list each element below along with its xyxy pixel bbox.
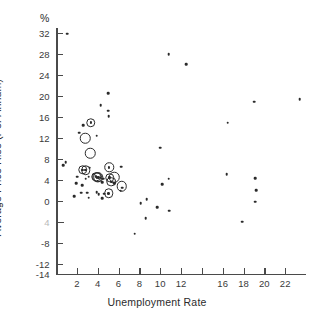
data-point (185, 63, 188, 66)
data-point (161, 183, 164, 186)
data-point (76, 175, 79, 178)
data-point (145, 198, 148, 201)
y-tick: 24 (56, 75, 63, 76)
y-tick-label: 0 (44, 195, 49, 206)
data-point (84, 177, 87, 180)
x-tick (98, 268, 99, 275)
y-axis-title: Average Price Rise (Per Annum) (0, 0, 22, 315)
data-point (116, 181, 127, 192)
data-point (101, 197, 104, 200)
y-tick-label: 4 (44, 174, 49, 185)
data-point (254, 177, 257, 180)
scatter-plot-figure: Average Price Rise (Per Annum) % Unemplo… (0, 0, 314, 315)
y-tick-label: 20 (39, 91, 50, 102)
data-point (107, 115, 110, 118)
x-tick (285, 268, 286, 275)
data-point (62, 164, 65, 167)
data-point (81, 165, 91, 175)
x-tick-label: 20 (259, 278, 270, 289)
x-tick-label: 12 (176, 278, 187, 289)
data-point (159, 147, 162, 150)
y-tick: 8 (56, 159, 63, 160)
data-point (99, 104, 102, 107)
x-tick (223, 268, 224, 275)
y-tick-label: 12 (39, 132, 50, 143)
plot-area: 3228242016128404-8-12-14 246810121618202… (56, 28, 306, 274)
x-tick (202, 268, 203, 275)
data-point (66, 32, 69, 35)
data-point (255, 189, 258, 192)
y-tick-label: -14 (36, 269, 50, 280)
y-tick: -8 (56, 243, 63, 244)
x-tick (139, 268, 140, 275)
data-point (120, 165, 123, 168)
data-point (86, 118, 96, 128)
data-point (97, 193, 100, 196)
y-tick: -12 (56, 264, 63, 265)
data-point (80, 192, 83, 195)
data-point (88, 175, 91, 178)
y-tick: -14 (56, 274, 63, 275)
x-tick (77, 268, 78, 275)
data-point (107, 109, 110, 112)
data-point (93, 173, 103, 183)
data-point (156, 206, 159, 209)
x-tick (181, 268, 182, 275)
y-tick-label: 16 (39, 111, 50, 122)
data-point (241, 220, 244, 223)
data-point (133, 232, 136, 235)
x-tick-label: 16 (217, 278, 228, 289)
y-tick-label: 8 (44, 153, 49, 164)
x-tick-label: 2 (74, 278, 79, 289)
y-tick-label: -12 (36, 258, 50, 269)
x-tick-label: 8 (137, 278, 142, 289)
data-point (227, 121, 230, 124)
y-tick: 12 (56, 138, 63, 139)
data-point (65, 161, 68, 164)
data-point (253, 101, 256, 104)
y-tick-label: 4 (44, 216, 49, 227)
y-tick-label: 24 (39, 70, 50, 81)
x-tick-label: 18 (238, 278, 249, 289)
data-point (86, 191, 89, 194)
x-tick (244, 268, 245, 275)
y-axis-line (56, 28, 58, 274)
y-tick-label: 28 (39, 49, 50, 60)
data-point (226, 173, 229, 176)
x-tick-label: 6 (116, 278, 121, 289)
data-point (88, 196, 91, 199)
data-point (82, 124, 85, 127)
x-axis-title: Unemployment Rate (0, 296, 314, 308)
y-axis-unit-label: % (40, 12, 49, 24)
data-point (107, 92, 110, 95)
y-axis-title-text: Average Price Rise (Per Annum) (0, 79, 3, 237)
y-tick: 16 (56, 117, 63, 118)
data-point (167, 177, 170, 180)
y-tick-label: 32 (39, 28, 50, 39)
data-point (140, 202, 143, 205)
data-point (80, 133, 91, 144)
y-tick-label: -8 (41, 237, 49, 248)
x-tick (160, 268, 161, 275)
y-tick: 20 (56, 96, 63, 97)
data-point (95, 135, 98, 138)
data-point (144, 217, 147, 220)
data-point (168, 209, 171, 212)
data-point (254, 200, 257, 203)
data-point (73, 195, 76, 198)
data-point (104, 189, 114, 199)
data-point (106, 177, 116, 187)
data-point (167, 53, 170, 56)
data-point (298, 98, 301, 101)
x-tick-label: 4 (95, 278, 100, 289)
y-tick: 4 (56, 180, 63, 181)
x-tick-label: 10 (155, 278, 166, 289)
data-point (78, 131, 81, 134)
data-point (75, 182, 78, 185)
y-tick: 4 (56, 222, 64, 224)
x-tick (119, 268, 120, 275)
data-point (81, 184, 84, 187)
y-tick: 28 (56, 54, 63, 55)
x-tick (264, 268, 265, 275)
data-point (104, 162, 114, 172)
